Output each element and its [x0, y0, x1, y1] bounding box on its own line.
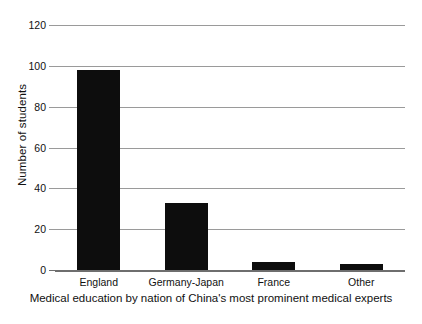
bar	[77, 70, 120, 270]
plot-area: 020406080100120	[55, 25, 405, 270]
x-axis-tick-label: Germany-Japan	[149, 276, 224, 288]
x-axis-caption: Medical education by nation of China's m…	[0, 292, 422, 304]
y-axis-tick-label: 40	[34, 182, 46, 194]
y-axis-tick-label: 20	[34, 223, 46, 235]
bar	[165, 203, 208, 270]
y-axis-tick-label: 100	[28, 60, 46, 72]
y-axis-tick-label: 60	[34, 142, 46, 154]
y-axis-tick-label: 80	[34, 101, 46, 113]
bar	[252, 262, 295, 270]
x-axis-tick-label: England	[79, 276, 118, 288]
bar	[340, 264, 383, 270]
y-axis-tick-label: 0	[40, 264, 46, 276]
y-axis-tick-mark	[49, 270, 55, 271]
x-axis-tick-label: France	[257, 276, 290, 288]
bar-chart-figure: Number of students 020406080100120 Engla…	[0, 0, 422, 324]
x-axis-baseline	[55, 270, 405, 272]
x-axis-tick-label: Other	[348, 276, 374, 288]
y-axis-tick-label: 120	[28, 19, 46, 31]
y-axis-title: Number of students	[14, 0, 30, 270]
y-axis-title-text: Number of students	[16, 84, 28, 186]
bars-layer	[55, 25, 405, 270]
